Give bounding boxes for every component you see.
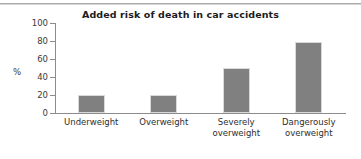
bar-1: [150, 95, 177, 113]
y-tick-label-40: 40: [22, 77, 48, 78]
category-label-line: overweight: [200, 128, 273, 139]
category-label-line: Overweight: [128, 117, 201, 128]
y-tick-0: [50, 113, 55, 114]
y-tick-label-20: 20: [22, 95, 48, 96]
category-label-line: Dangerously: [273, 117, 346, 128]
x-axis-line: [55, 113, 346, 114]
category-label-line: overweight: [273, 128, 346, 139]
y-tick-label-0: 0: [22, 113, 48, 114]
chart-figure: Added risk of death in car accidents % 0…: [0, 0, 361, 159]
bar-0: [78, 95, 105, 113]
y-tick-80: [50, 41, 55, 42]
category-label-line: Underweight: [55, 117, 128, 128]
y-tick-100: [50, 23, 55, 24]
y-axis-title: %: [13, 67, 21, 77]
category-label-0: Underweight: [55, 117, 128, 128]
chart-title: Added risk of death in car accidents: [0, 9, 361, 20]
category-label-1: Overweight: [128, 117, 201, 128]
bar-3: [295, 42, 322, 113]
y-tick-label-80: 80: [22, 41, 48, 42]
category-label-2: Severelyoverweight: [200, 117, 273, 138]
y-tick-60: [50, 59, 55, 60]
y-axis-line: [55, 23, 56, 114]
y-tick-label-60: 60: [22, 59, 48, 60]
y-tick-20: [50, 95, 55, 96]
y-tick-40: [50, 77, 55, 78]
bar-2: [223, 68, 250, 113]
y-tick-label-100: 100: [22, 23, 48, 24]
category-label-3: Dangerouslyoverweight: [273, 117, 346, 138]
top-divider-rule: [0, 3, 361, 5]
category-label-line: Severely: [200, 117, 273, 128]
